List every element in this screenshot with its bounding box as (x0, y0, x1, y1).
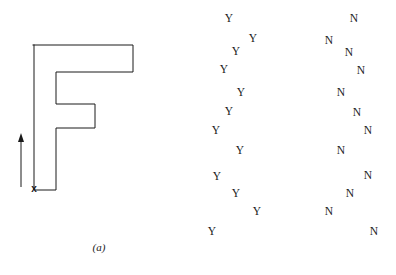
n-glyph-10: N (325, 206, 333, 218)
n-glyph-1: N (325, 35, 333, 47)
panel-a-caption: (a) (0, 241, 198, 253)
y-glyph-7: Y (236, 145, 244, 157)
n-glyph-11: N (370, 226, 378, 238)
y-glyph-8: Y (213, 171, 221, 183)
y-glyph-5: Y (225, 106, 233, 118)
y-glyph-3: Y (220, 64, 228, 76)
n-glyph-0: N (350, 13, 358, 25)
figure-root: x (a) YYYYYYYYYYYY NNNNNNNNNNNN (b) (0, 0, 396, 275)
y-glyph-10: Y (253, 206, 261, 218)
y-glyph-1: Y (249, 33, 257, 45)
y-glyph-0: Y (225, 13, 233, 25)
n-glyph-3: N (357, 65, 365, 77)
n-glyph-8: N (364, 170, 372, 182)
n-glyph-4: N (337, 87, 345, 99)
n-glyph-9: N (346, 188, 354, 200)
y-glyph-11: Y (208, 226, 216, 238)
n-glyph-7: N (337, 145, 345, 157)
y-glyph-9: Y (232, 188, 240, 200)
y-glyph-6: Y (212, 125, 220, 137)
n-glyph-2: N (345, 47, 353, 59)
y-glyph-4: Y (237, 87, 245, 99)
n-glyph-5: N (353, 107, 361, 119)
arrow-head (18, 133, 24, 142)
upward-direction-arrow (18, 133, 24, 187)
f-shaped-polygon-outline (33, 45, 133, 190)
n-glyph-6: N (364, 125, 372, 137)
y-glyph-2: Y (232, 46, 240, 58)
panel-a: x (a) (0, 0, 198, 275)
start-point-marker-x: x (31, 184, 37, 194)
panel-b: YYYYYYYYYYYY NNNNNNNNNNNN (b) (198, 0, 396, 275)
